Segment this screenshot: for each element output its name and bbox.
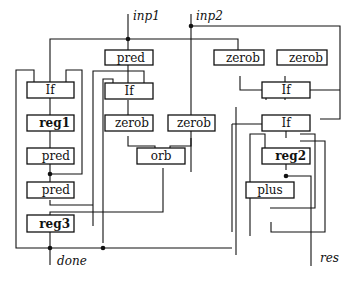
- box-pred-left-1: pred: [27, 148, 74, 164]
- box-label: pred: [42, 183, 71, 197]
- box-label: plus: [257, 183, 282, 197]
- box-zerob-m1: zerob: [105, 115, 153, 131]
- box-label: If: [45, 83, 56, 97]
- box-label: zerob: [289, 51, 323, 65]
- box-label: pred: [117, 51, 146, 65]
- box-label: zerob: [226, 51, 260, 65]
- box-zerob-r2: zerob: [277, 50, 327, 65]
- box-if-right-2: If: [262, 115, 310, 131]
- box-label: If: [124, 84, 135, 98]
- port-inp2-label: inp2: [196, 9, 223, 23]
- box-label: reg1: [39, 116, 70, 130]
- box-label: reg2: [275, 149, 306, 163]
- port-res-label: res: [320, 251, 339, 265]
- box-reg3: reg3: [27, 215, 74, 232]
- box-label: orb: [151, 149, 172, 163]
- box-plus: plus: [246, 182, 294, 198]
- junction-dot: [189, 24, 194, 29]
- junction-dot: [126, 37, 131, 42]
- box-label: zerob: [115, 116, 149, 130]
- box-zerob-r1: zerob: [214, 50, 264, 65]
- junction-dot: [48, 246, 53, 251]
- box-orb: orb: [137, 148, 185, 164]
- junction-dot: [284, 174, 289, 179]
- box-label: pred: [42, 149, 71, 163]
- box-reg2: reg2: [262, 148, 310, 164]
- box-pred-left-2: pred: [27, 182, 74, 198]
- box-if-mid: If: [105, 83, 153, 99]
- box-label: If: [281, 83, 292, 97]
- junction-dot: [101, 246, 106, 251]
- box-reg1: reg1: [27, 115, 74, 131]
- port-done-label: done: [57, 254, 87, 268]
- box-if-left: If: [27, 82, 74, 98]
- circuit-diagram: pred zerob zerob If If If reg1 zerob zer…: [0, 0, 351, 282]
- wire-inp2-bus: [191, 26, 340, 119]
- junction-dot: [48, 172, 53, 177]
- box-label: If: [281, 116, 292, 130]
- wire-ifmid-loop: [103, 79, 113, 243]
- wire-pred2-out: [50, 200, 93, 205]
- box-zerob-m2: zerob: [168, 115, 215, 131]
- box-if-right-top: If: [262, 82, 310, 98]
- port-inp1-label: inp1: [133, 9, 160, 23]
- box-pred-top: pred: [105, 50, 153, 65]
- box-label: reg3: [39, 217, 70, 231]
- box-label: zerob: [177, 116, 211, 130]
